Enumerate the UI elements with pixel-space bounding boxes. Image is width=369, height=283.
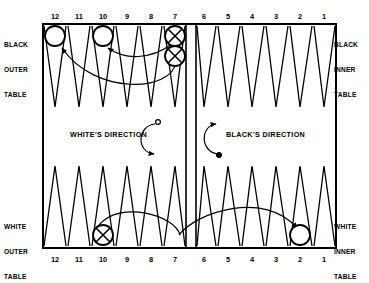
black-direction-label: BLACK'S DIRECTION xyxy=(226,130,305,139)
top-point-number-1: 1 xyxy=(322,12,326,21)
bottom-point-number-11: 11 xyxy=(75,255,83,264)
white-direction-label: WHITE'S DIRECTION xyxy=(70,130,147,139)
bottom-point-number-10: 10 xyxy=(99,255,107,264)
top-point-number-6: 6 xyxy=(202,12,206,21)
checker-white-top-10[interactable] xyxy=(93,26,113,46)
top-point-number-10: 10 xyxy=(99,12,107,21)
top-point-number-2: 2 xyxy=(298,12,302,21)
bottom-point-number-3: 3 xyxy=(274,255,278,264)
top-point-number-5: 5 xyxy=(226,12,230,21)
label-black-inner-line-2: INNER xyxy=(334,66,358,74)
bottom-point-number-12: 12 xyxy=(51,255,59,264)
top-point-numbers: 12 11 10 9 8 7 6 5 4 3 2 1 xyxy=(51,12,326,21)
checker-black-bottom-10[interactable] xyxy=(93,225,113,245)
black-direction-filled-dot xyxy=(216,152,221,157)
bottom-point-number-2: 2 xyxy=(298,255,302,264)
top-point-number-8: 8 xyxy=(149,12,153,21)
bottom-point-numbers: 12 11 10 9 8 7 6 5 4 3 2 1 xyxy=(51,255,326,264)
label-white-outer-line-2: OUTER xyxy=(4,248,28,256)
label-black-outer-line-2: OUTER xyxy=(4,66,28,74)
label-white-inner-line-2: INNER xyxy=(334,248,357,256)
label-white-outer-line-1: WHITE xyxy=(4,223,28,231)
bottom-point-number-5: 5 xyxy=(226,255,230,264)
bottom-point-number-7: 7 xyxy=(173,255,177,264)
checker-black-top-7-lower[interactable] xyxy=(165,46,185,66)
top-point-number-4: 4 xyxy=(250,12,255,21)
label-black-inner-line-3: TABLE xyxy=(334,91,358,99)
bottom-point-number-6: 6 xyxy=(202,255,206,264)
top-point-number-12: 12 xyxy=(51,12,59,21)
checker-white-bottom-2[interactable] xyxy=(290,225,310,245)
label-black-outer-table: BLACK OUTER TABLE xyxy=(4,24,28,116)
label-black-inner-table: BLACK INNER TABLE xyxy=(334,24,358,116)
top-point-number-11: 11 xyxy=(75,12,83,21)
bottom-point-number-4: 4 xyxy=(250,255,255,264)
label-black-outer-line-1: BLACK xyxy=(4,41,28,49)
checker-black-top-7-upper[interactable] xyxy=(165,26,185,46)
checker-white-top-12[interactable] xyxy=(45,26,65,46)
white-direction-open-dot xyxy=(156,120,161,125)
bottom-point-number-1: 1 xyxy=(322,255,326,264)
label-white-inner-line-1: WHITE xyxy=(334,223,357,231)
bottom-point-number-8: 8 xyxy=(149,255,153,264)
top-point-number-7: 7 xyxy=(173,12,177,21)
top-point-number-3: 3 xyxy=(274,12,278,21)
label-black-outer-line-3: TABLE xyxy=(4,91,28,99)
label-white-outer-line-3: TABLE xyxy=(4,273,28,281)
label-white-outer-table: WHITE OUTER TABLE xyxy=(4,206,28,283)
label-black-inner-line-1: BLACK xyxy=(334,41,358,49)
bottom-point-number-9: 9 xyxy=(125,255,129,264)
label-white-inner-table: WHITE INNER TABLE xyxy=(334,206,357,283)
label-white-inner-line-3: TABLE xyxy=(334,273,357,281)
top-point-number-9: 9 xyxy=(125,12,129,21)
